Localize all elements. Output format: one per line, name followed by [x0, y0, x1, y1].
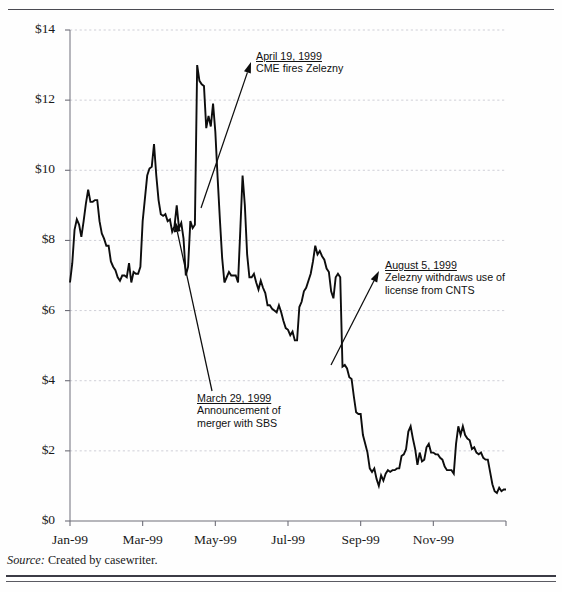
annotation-text-line: merger with SBS — [197, 417, 281, 429]
annotation-date: March 29, 1999 — [197, 392, 281, 404]
y-axis-tick-label: $10 — [7, 161, 55, 177]
chart-annotation-april-19: April 19, 1999CME fires Zelezny — [256, 50, 343, 75]
y-axis-tick-label: $2 — [7, 442, 55, 458]
annotation-date: August 5, 1999 — [385, 259, 505, 271]
x-axis-tick-label: May-99 — [175, 532, 255, 548]
y-axis-tick-label: $8 — [7, 231, 55, 247]
chart-annotation-august-5: August 5, 1999Zelezny withdraws use ofli… — [385, 259, 505, 296]
annotation-date: April 19, 1999 — [256, 50, 343, 62]
annotation-text-line: CME fires Zelezny — [256, 62, 343, 74]
x-axis-tick-label: Jan-99 — [30, 532, 110, 548]
y-axis-tick-label: $4 — [7, 372, 55, 388]
annotation-arrow-shaft-april-19 — [201, 72, 247, 208]
exhibit-figure: $0$2$4$6$8$10$12$14 Jan-99Mar-99May-99Ju… — [0, 0, 562, 592]
x-axis-tick-label: Jul-99 — [248, 532, 328, 548]
annotation-arrow-shaft-march-29 — [177, 232, 212, 391]
x-axis-tick-label: Sep-99 — [321, 532, 401, 548]
chart-annotation-march-29: March 29, 1999Announcement ofmerger with… — [197, 392, 281, 429]
y-axis-tick-label: $14 — [7, 21, 55, 37]
y-axis-tick-label: $12 — [7, 91, 55, 107]
x-axis-tick-label: Nov-99 — [393, 532, 473, 548]
annotation-text-line: license from CNTS — [385, 284, 505, 296]
annotation-arrow-head-april-19 — [244, 62, 251, 74]
bottom-divider-rule-thin — [6, 581, 556, 582]
source-text: Created by casewriter. — [48, 553, 158, 567]
y-axis-tick-label: $0 — [7, 512, 55, 528]
chart-gridlines — [70, 30, 506, 451]
annotation-arrow-head-august-5 — [371, 271, 379, 282]
y-axis-tick-label: $6 — [7, 302, 55, 318]
source-label: Source: — [7, 553, 45, 567]
annotation-arrow-shaft-august-5 — [331, 281, 374, 365]
stock-price-chart: $0$2$4$6$8$10$12$14 Jan-99Mar-99May-99Ju… — [0, 0, 562, 592]
bottom-divider-rule-thick — [6, 575, 556, 577]
annotation-text-line: Announcement of — [197, 404, 281, 416]
annotation-text-line: Zelezny withdraws use of — [385, 271, 505, 283]
source-note: Source: Created by casewriter. — [7, 553, 157, 568]
x-axis-tick-label: Mar-99 — [103, 532, 183, 548]
